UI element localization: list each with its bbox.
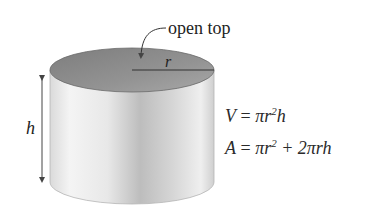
open-top-label: open top xyxy=(168,18,231,38)
radius-label: r xyxy=(165,53,172,70)
area-equals: = xyxy=(241,138,251,158)
volume-formula: V = πr2h xyxy=(225,106,286,127)
volume-rhs: πr2h xyxy=(255,106,286,126)
area-rhs-tail: + 2πrh xyxy=(281,138,331,158)
volume-rhs-base: πr xyxy=(255,106,271,126)
area-rhs-exponent: 2 xyxy=(271,137,277,149)
area-formula: A = πr2 + 2πrh xyxy=(225,138,332,159)
height-label: h xyxy=(26,118,35,138)
volume-rhs-tail: h xyxy=(277,106,286,126)
area-rhs-base: πr xyxy=(255,138,271,158)
volume-equals: = xyxy=(241,106,251,126)
area-rhs: πr2 + 2πrh xyxy=(255,138,331,158)
volume-lhs: V xyxy=(225,106,236,126)
area-lhs: A xyxy=(225,138,236,158)
cylinder-diagram: r open top h xyxy=(0,0,392,216)
